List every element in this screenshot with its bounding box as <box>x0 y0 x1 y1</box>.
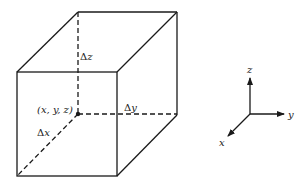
cube-hidden-edge-diagonal <box>17 114 78 176</box>
z-axis-label: z <box>246 64 253 75</box>
dy-label: Δy <box>124 102 137 113</box>
point-label: (x, y, z) <box>37 104 73 115</box>
cube-edge-top-right <box>117 12 177 72</box>
origin-point <box>76 112 80 116</box>
dz-label: Δz <box>80 51 93 62</box>
x-axis-label: x <box>219 137 225 148</box>
dx-label: Δx <box>37 127 50 138</box>
cube-edge-top-left <box>17 12 78 72</box>
x-axis-arrow <box>228 114 250 136</box>
control-volume-figure: (x, y, z) Δz Δy Δx z y x <box>0 0 304 184</box>
coordinate-axes <box>228 78 284 136</box>
y-axis-label: y <box>287 109 294 120</box>
cube <box>17 12 177 176</box>
cube-edge-bottom-right <box>117 115 177 176</box>
